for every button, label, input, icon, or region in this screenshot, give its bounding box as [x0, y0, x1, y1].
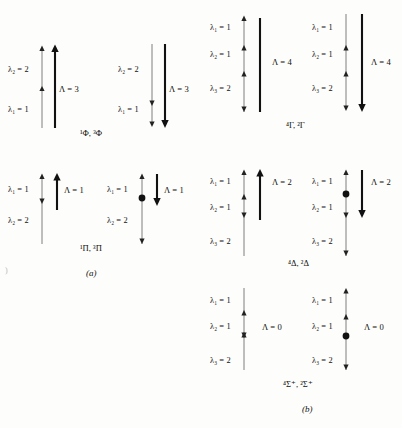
panel-caption-b: (b) — [302, 404, 313, 414]
term-symbol-b-row3: ⁴Σ⁺, ²Σ⁺ — [283, 379, 313, 389]
label-b3-left-lambda2: λ₂ = 1 — [210, 322, 231, 331]
label-a1-left-resultant: Λ = 3 — [59, 84, 79, 94]
label-b2-left-resultant: Λ = 2 — [272, 177, 292, 187]
label-b3-right-lambda2: λ₂ = 1 — [312, 322, 333, 331]
label-b3-right-resultant: Λ = 0 — [364, 322, 384, 332]
label-b2-right-lambda2: λ₂ = 1 — [312, 203, 333, 212]
label-a1-right-lambda2: λ₂ = 2 — [118, 65, 139, 74]
label-b2-right-lambda1: λ₁ = 1 — [312, 177, 333, 186]
label-b2-left-lambda3: λ₃ = 2 — [210, 237, 231, 246]
label-b3-right-lambda1: λ₁ = 1 — [312, 296, 333, 305]
label-b3-left-lambda1: λ₁ = 1 — [210, 296, 231, 305]
node-dot — [139, 195, 146, 202]
label-b1-left-lambda2: λ₂ = 1 — [210, 50, 231, 59]
term-symbol-a-row2: ¹Π, ³Π — [80, 243, 102, 253]
label-a1-left-lambda2: λ₂ = 2 — [8, 65, 29, 74]
vector-stack-a2-left — [36, 172, 76, 244]
label-b3-right-lambda3: λ₃ = 2 — [312, 356, 333, 365]
term-symbol-b-row1: ⁴Γ, ²Γ — [286, 120, 305, 130]
label-a1-right-lambda1: λ₁ = 1 — [118, 105, 139, 114]
label-b1-left-lambda3: λ₃ = 2 — [210, 84, 231, 93]
label-b3-left-lambda3: λ₃ = 2 — [210, 356, 231, 365]
node-dot — [343, 191, 350, 198]
label-b1-right-resultant: Λ = 4 — [371, 57, 391, 67]
label-b1-right-lambda1: λ₁ = 1 — [312, 23, 333, 32]
term-symbol-a-row1: ¹Φ, ³Φ — [80, 128, 102, 138]
panel-caption-a: (a) — [86, 268, 97, 278]
label-a2-left-lambda2: λ₂ = 2 — [8, 216, 29, 225]
label-a2-left-lambda1: λ₁ = 1 — [8, 185, 29, 194]
label-a2-right-lambda1: λ₁ = 1 — [107, 185, 128, 194]
label-b2-left-lambda1: λ₁ = 1 — [210, 177, 231, 186]
label-b1-left-resultant: Λ = 4 — [272, 57, 292, 67]
label-a2-right-resultant: Λ = 1 — [164, 185, 184, 195]
label-b2-right-resultant: Λ = 2 — [371, 177, 391, 187]
label-b1-right-lambda3: λ₃ = 2 — [312, 84, 333, 93]
vector-stack-a2-right — [134, 172, 180, 244]
label-a1-left-lambda1: λ₁ = 1 — [8, 105, 29, 114]
label-b1-left-lambda1: λ₁ = 1 — [210, 23, 231, 32]
label-a2-right-lambda2: λ₂ = 2 — [107, 216, 128, 225]
term-symbol-b-row2: ⁴Δ, ²Δ — [288, 258, 309, 268]
label-a2-left-resultant: Λ = 1 — [64, 185, 84, 195]
label-b1-right-lambda2: λ₂ = 1 — [312, 50, 333, 59]
label-b2-left-lambda2: λ₂ = 1 — [210, 203, 231, 212]
figure-canvas: λ₂ = 2 λ₁ = 1 Λ = 3 λ₂ = 2 λ₁ = 1 Λ = 3 … — [0, 0, 402, 428]
stray-mark: ) — [5, 266, 8, 275]
label-b2-right-lambda3: λ₃ = 2 — [312, 237, 333, 246]
label-a1-right-resultant: Λ = 3 — [169, 84, 189, 94]
label-b3-left-resultant: Λ = 0 — [262, 322, 282, 332]
node-dot — [343, 333, 350, 340]
